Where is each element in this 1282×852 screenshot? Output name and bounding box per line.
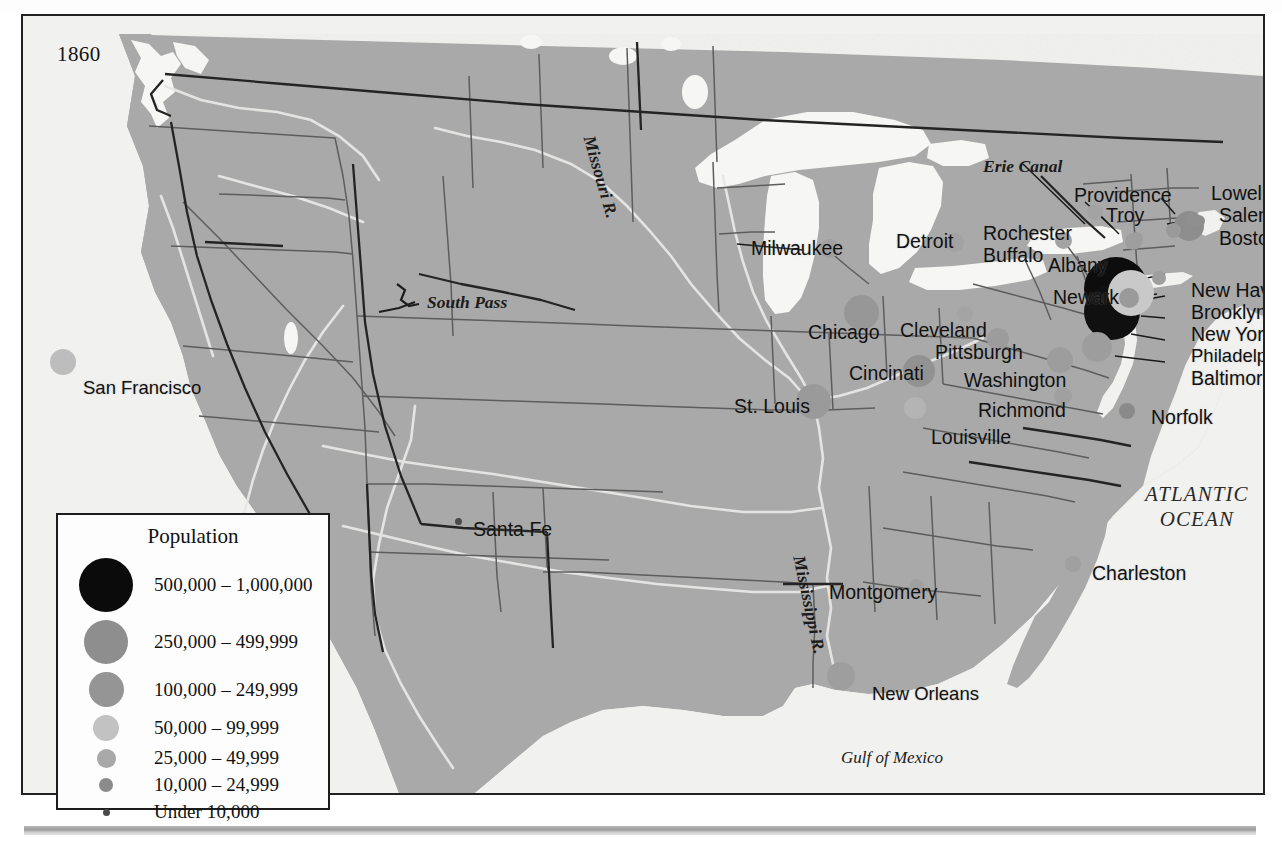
legend-swatch: [58, 749, 154, 768]
city-label: New York: [1191, 325, 1263, 345]
population-circle: [1152, 271, 1166, 285]
legend-swatch-circle: [99, 778, 113, 792]
city-label: Detroit: [896, 232, 953, 252]
population-circle: [455, 518, 462, 525]
legend-row: 10,000 – 24,999: [58, 772, 328, 798]
population-circle: [1065, 556, 1081, 572]
city-label: Montgomery: [829, 583, 937, 603]
city-label: New Haven: [1191, 281, 1263, 301]
geo-label-line: ATLANTIC: [1145, 484, 1249, 505]
city-label: Providence: [1074, 186, 1172, 206]
geo-label-south-pass: South Pass: [427, 294, 507, 312]
city-label: Cleveland: [900, 321, 987, 341]
city-label: Cincinati: [849, 364, 924, 384]
legend-row: 250,000 – 499,999: [58, 617, 328, 667]
legend-label: 100,000 – 249,999: [154, 679, 298, 701]
legend-label: 250,000 – 499,999: [154, 631, 298, 653]
legend-label: 50,000 – 99,999: [154, 717, 279, 739]
legend-swatch-circle: [93, 715, 119, 741]
city-label: Brooklyn: [1191, 303, 1263, 323]
legend-row: Under 10,000: [58, 799, 328, 825]
population-circle: [827, 662, 855, 690]
legend-row: 500,000 – 1,000,000: [58, 555, 328, 615]
legend-rows: 500,000 – 1,000,000250,000 – 499,999100,…: [58, 555, 328, 825]
city-label: New Orleans: [872, 685, 979, 704]
geo-label-erie-canal: Erie Canal: [983, 158, 1062, 176]
legend-swatch: [58, 715, 154, 741]
legend-label: Under 10,000: [154, 801, 260, 823]
city-label: Norfolk: [1151, 408, 1213, 428]
population-circle: [1087, 204, 1103, 220]
population-circle: [1119, 403, 1135, 419]
legend-swatch-circle: [97, 749, 116, 768]
map-date-label: 1860: [57, 42, 101, 67]
legend-title: Population: [58, 524, 328, 549]
legend-swatch-circle: [89, 672, 124, 707]
city-label: St. Louis: [734, 397, 810, 417]
city-label: Boston: [1219, 229, 1263, 249]
city-label: Chicago: [808, 323, 880, 343]
legend-label: 10,000 – 24,999: [154, 774, 279, 796]
population-circle: [1130, 232, 1143, 245]
legend-label: 500,000 – 1,000,000: [154, 574, 313, 596]
geo-label-atlantic-ocean: ATLANTICOCEAN: [1145, 484, 1249, 530]
page-bottom-rule: [24, 826, 1256, 835]
legend-swatch: [58, 620, 154, 664]
page-title-strip: [0, 0, 1282, 13]
population-circle: [1166, 223, 1181, 238]
population-circle: [1193, 215, 1205, 227]
legend-label: 25,000 – 49,999: [154, 747, 279, 769]
legend-swatch: [58, 778, 154, 792]
legend-row: 25,000 – 49,999: [58, 745, 328, 771]
city-label: Buffalo: [983, 246, 1043, 266]
population-circle: [50, 349, 76, 375]
city-label: Albany: [1048, 256, 1108, 276]
city-label: Milwaukee: [751, 239, 843, 259]
legend: Population 500,000 – 1,000,000250,000 – …: [56, 513, 330, 810]
legend-swatch-circle: [79, 558, 133, 612]
city-label: Newark: [1053, 288, 1119, 308]
population-circle: [1119, 288, 1139, 308]
population-circle: [1082, 332, 1112, 362]
city-label: San Francisco: [83, 379, 201, 398]
city-label: Santa Fe: [473, 520, 552, 540]
city-label: Pittsburgh: [935, 343, 1023, 363]
legend-row: 100,000 – 249,999: [58, 669, 328, 710]
map-page: San FranciscoSanta FeSt. LouisMilwaukeeC…: [0, 0, 1282, 852]
city-label: Louisville: [931, 428, 1011, 448]
city-label: Salem: [1219, 206, 1263, 226]
legend-row: 50,000 – 99,999: [58, 712, 328, 744]
geo-label-gulf-of-mexico: Gulf of Mexico: [841, 749, 943, 766]
legend-swatch-circle: [84, 620, 128, 664]
map-frame: San FranciscoSanta FeSt. LouisMilwaukeeC…: [21, 14, 1265, 795]
legend-swatch: [58, 558, 154, 612]
city-label: Rochester: [983, 224, 1072, 244]
legend-swatch: [58, 672, 154, 707]
city-label: Philadelphia: [1191, 347, 1263, 366]
legend-swatch-circle: [103, 809, 110, 816]
geo-label-line: OCEAN: [1145, 509, 1249, 530]
population-circle: [904, 397, 926, 419]
city-label: Troy: [1106, 206, 1144, 226]
city-label: Charleston: [1092, 564, 1186, 584]
city-label: Washington: [964, 371, 1066, 391]
city-label: Lowell: [1211, 184, 1263, 204]
legend-swatch: [58, 809, 154, 816]
city-label: Richmond: [978, 401, 1066, 421]
city-label: Baltimore: [1191, 369, 1263, 389]
